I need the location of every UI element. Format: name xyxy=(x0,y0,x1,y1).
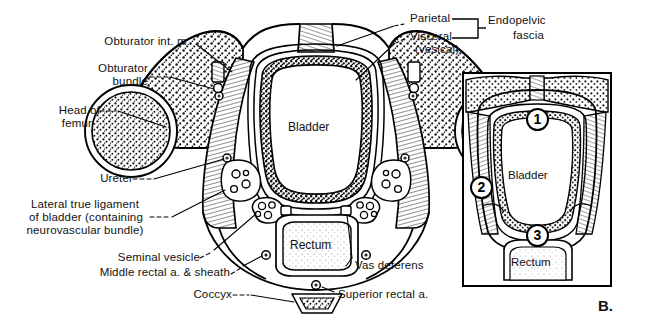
obturator-bundle-right xyxy=(408,62,420,92)
inset-marker-3: 3 xyxy=(526,224,549,247)
label-parietal: Parietal xyxy=(410,12,450,25)
label-endopelvic-fascia-line2: fascia xyxy=(513,29,544,42)
figure-canvas: Obturator int. m. Obturator bundle Head … xyxy=(0,0,650,328)
label-seminal-vesicle: Seminal vesicle xyxy=(60,251,200,264)
label-head-of-femur-line2: femur xyxy=(8,117,92,130)
inset-panel-b: Bladder Rectum 1 2 3 xyxy=(462,72,612,287)
label-superior-rectal-artery: Superior rectal a. xyxy=(338,288,428,301)
lateral-true-ligament-right xyxy=(372,160,411,201)
organ-label-rectum-inset: Rectum xyxy=(511,256,551,268)
label-obturator-bundle-line2: bundle xyxy=(24,75,148,88)
obturator-bundle-left xyxy=(212,62,224,92)
label-obturator-bundle-line1: Obturator xyxy=(24,62,148,75)
label-obturator-internus-muscle: Obturator int. m. xyxy=(24,35,190,48)
label-head-of-femur-line1: Head of xyxy=(8,104,100,117)
vas-deferens-markers xyxy=(281,206,351,215)
label-lateral-ligament-line3: neurovascular bundle) xyxy=(6,224,164,237)
organ-label-bladder-main: Bladder xyxy=(288,120,329,134)
organ-label-bladder-inset: Bladder xyxy=(508,169,548,181)
inset-marker-2: 2 xyxy=(470,176,493,199)
label-visceral: Visceral xyxy=(410,30,452,43)
label-lateral-ligament-line1: Lateral true ligament xyxy=(6,198,164,211)
label-vas-deferens: Vas deferens xyxy=(355,259,424,272)
endopelvic-fascia-bracket xyxy=(452,19,486,38)
head-of-femur-left xyxy=(85,85,177,177)
panel-letter-b: B. xyxy=(598,297,613,314)
label-ureter: Ureter xyxy=(48,172,133,185)
label-middle-rectal-artery: Middle rectal a. & sheath xyxy=(22,266,230,279)
label-endopelvic-fascia-line1: Endopelvic xyxy=(488,14,546,27)
superior-rectal-artery xyxy=(312,281,321,290)
pubic-symphysis xyxy=(243,24,389,52)
lateral-true-ligament-left xyxy=(221,160,260,201)
organ-label-rectum-main: Rectum xyxy=(290,238,331,252)
label-lateral-ligament-line2: of bladder (containing xyxy=(6,211,166,224)
label-coccyx: Coccyx xyxy=(128,288,232,301)
label-vesical: (vesical) xyxy=(415,43,459,56)
inset-pubic-bone xyxy=(466,76,608,112)
coccyx xyxy=(292,294,342,313)
inset-marker-1: 1 xyxy=(526,108,549,131)
